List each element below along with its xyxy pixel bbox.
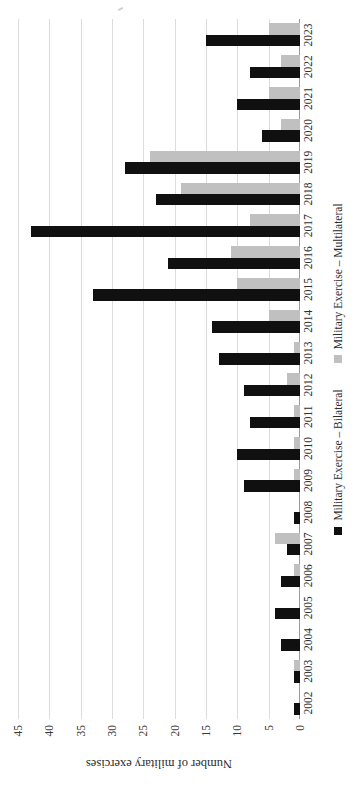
bar-group: 2006 — [18, 564, 300, 587]
y-axis-tick-label: 5 — [263, 725, 275, 731]
bar-group: 2023 — [18, 23, 300, 46]
y-axis-tick-label: 20 — [169, 725, 181, 737]
bar-multilateral — [237, 278, 300, 289]
x-axis-category-label: 2007 — [302, 533, 314, 556]
bar-group: 2002 — [18, 692, 300, 715]
bar-bilateral — [31, 226, 300, 237]
bar-bilateral — [93, 289, 300, 300]
bar-multilateral — [269, 310, 300, 321]
x-axis-category-label: 2020 — [302, 119, 314, 142]
y-axis-tick-label: 35 — [75, 725, 87, 737]
bar-bilateral — [244, 385, 300, 396]
bar-multilateral — [269, 87, 300, 98]
x-axis-category-label: 2022 — [302, 55, 314, 78]
bar-group: 2015 — [18, 278, 300, 301]
y-axis-title-host: Number of military exercises — [18, 753, 300, 769]
bar-multilateral — [294, 342, 300, 353]
bar-bilateral — [250, 417, 300, 428]
bar-multilateral — [281, 55, 300, 66]
bar-bilateral — [219, 353, 300, 364]
bar-multilateral — [275, 533, 300, 544]
bar-multilateral — [281, 119, 300, 130]
square-swatch-icon — [334, 355, 342, 363]
bar-bilateral — [212, 321, 300, 332]
bar-multilateral — [287, 373, 300, 384]
bar-bilateral — [262, 130, 300, 141]
y-axis-tick-label: 40 — [43, 725, 55, 737]
x-axis-category-label: 2002 — [302, 692, 314, 715]
bar-bilateral — [275, 608, 300, 619]
legend-item[interactable]: Military Exercise – Multilateral — [332, 203, 344, 363]
y-axis-tick-label: 15 — [200, 725, 212, 737]
y-axis-tick-label: 45 — [12, 725, 24, 737]
bar-bilateral — [250, 67, 300, 78]
plot-area: 051015202530354045 200220032004200520062… — [18, 19, 300, 719]
x-axis-category-label: 2019 — [302, 151, 314, 174]
square-swatch-icon — [334, 527, 342, 535]
chart-legend: Military Exercise – BilateralMilitary Ex… — [332, 19, 344, 719]
x-axis-category-label: 2010 — [302, 437, 314, 460]
x-axis-category-label: 2009 — [302, 469, 314, 492]
y-axis-tick-label: 30 — [106, 725, 118, 737]
x-axis-category-label: 2015 — [302, 278, 314, 301]
bar-group: 2010 — [18, 437, 300, 460]
bar-bilateral — [281, 576, 300, 587]
bar-group: 2018 — [18, 183, 300, 206]
x-axis-category-label: 2016 — [302, 246, 314, 269]
legend-item[interactable]: Military Exercise – Bilateral — [332, 389, 344, 534]
bar-bilateral — [237, 99, 300, 110]
bar-group: 2020 — [18, 119, 300, 142]
y-axis-tick-label: 25 — [137, 725, 149, 737]
bar-group: 2016 — [18, 246, 300, 269]
x-axis-category-label: 2011 — [302, 405, 314, 428]
bar-bilateral — [287, 544, 300, 555]
bar-multilateral — [231, 246, 300, 257]
x-axis-category-label: 2008 — [302, 501, 314, 524]
bar-bilateral — [237, 449, 300, 460]
bar-chart-figure: Number of military exercises 05101520253… — [0, 0, 357, 787]
x-axis-category-label: 2017 — [302, 214, 314, 237]
bar-bilateral — [294, 671, 300, 682]
x-axis-category-label: 2021 — [302, 87, 314, 110]
bar-group: 2021 — [18, 87, 300, 110]
legend-label: Military Exercise – Bilateral — [332, 389, 344, 520]
x-axis-category-label: 2004 — [302, 628, 314, 651]
bar-bilateral — [294, 512, 300, 523]
bar-multilateral — [294, 437, 300, 448]
bar-multilateral — [269, 23, 300, 34]
bar-multilateral — [250, 214, 300, 225]
x-axis-category-label: 2023 — [302, 23, 314, 46]
rotated-figure-wrapper: Number of military exercises 05101520253… — [0, 0, 357, 787]
x-axis-category-label: 2013 — [302, 342, 314, 365]
bar-group: 2007 — [18, 533, 300, 556]
bar-bilateral — [281, 639, 300, 650]
y-axis-title: Number of military exercises — [86, 756, 232, 771]
bar-group: 2019 — [18, 151, 300, 174]
x-axis-category-label: 2014 — [302, 310, 314, 333]
x-axis-category-label: 2003 — [302, 660, 314, 683]
bar-bilateral — [206, 35, 300, 46]
bar-group: 2005 — [18, 596, 300, 619]
bar-group: 2003 — [18, 660, 300, 683]
bar-group: 2011 — [18, 405, 300, 428]
bar-group: 2012 — [18, 373, 300, 396]
x-axis-category-label: 2018 — [302, 183, 314, 206]
bar-bilateral — [168, 258, 300, 269]
bar-group: 2014 — [18, 310, 300, 333]
y-axis-tick-label: 0 — [294, 725, 306, 731]
bar-multilateral — [181, 183, 300, 194]
bar-group: 2008 — [18, 501, 300, 524]
bar-multilateral — [294, 469, 300, 480]
legend-label: Military Exercise – Multilateral — [332, 203, 344, 349]
x-axis-category-label: 2006 — [302, 564, 314, 587]
x-axis-category-label: 2005 — [302, 596, 314, 619]
bar-multilateral — [294, 564, 300, 575]
bar-multilateral — [294, 405, 300, 416]
bar-multilateral — [294, 660, 300, 671]
bar-bilateral — [156, 194, 300, 205]
bar-group: 2009 — [18, 469, 300, 492]
bar-bilateral — [244, 480, 300, 491]
x-axis-category-label: 2012 — [302, 373, 314, 396]
bar-group: 2022 — [18, 55, 300, 78]
bar-group: 2017 — [18, 214, 300, 237]
